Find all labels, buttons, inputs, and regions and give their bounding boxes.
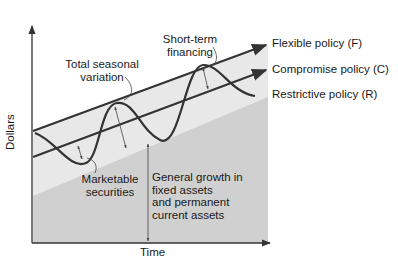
y-axis-label: Dollars [4, 114, 16, 150]
x-axis-label: Time [140, 246, 165, 259]
total-seasonal-variation-label: Total seasonal variation [62, 58, 142, 83]
general-growth-label: General growth in fixed assets and perma… [152, 171, 243, 221]
legend-flexible: Flexible policy (F) [272, 37, 362, 50]
legend-restrictive: Restrictive policy (R) [272, 88, 377, 101]
marketable-securities-label: Marketable securities [75, 173, 145, 198]
short-term-financing-label: Short-term financing [155, 33, 225, 58]
legend-compromise: Compromise policy (C) [272, 63, 389, 76]
